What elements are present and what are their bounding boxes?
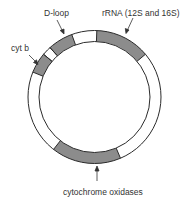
segment-rrna-12s-and-16s- — [96, 31, 145, 62]
rrna-arrow — [127, 18, 133, 31]
cox-arrowhead — [95, 166, 99, 171]
gene-segments — [33, 31, 146, 164]
label-d-loop: D-loop — [44, 8, 69, 18]
label-cytochrome-oxidases: cytochrome oxidases — [63, 187, 143, 197]
mtdna-map: cyt b D-loop rRNA (12S and 16S) cytochro… — [0, 0, 182, 206]
label-rrna: rRNA (12S and 16S) — [102, 8, 180, 18]
label-cyt-b: cyt b — [11, 43, 29, 53]
inner-ring — [39, 42, 150, 153]
rrna-arrowhead — [125, 29, 129, 34]
dloop-arrowhead — [60, 29, 64, 34]
